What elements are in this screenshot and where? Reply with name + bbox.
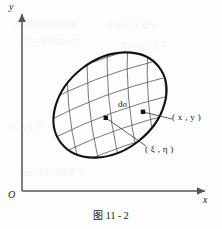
curvilinear-mesh xyxy=(40,36,192,178)
mesh-curve-v xyxy=(127,38,138,158)
figure-container: 在区域上积分得到 的面积元素为 于是有下面的公式 其中积分号下 代入可得 因此所… xyxy=(0,0,222,229)
axis-group xyxy=(22,14,205,191)
figure-caption: 图 11 - 2 xyxy=(0,207,222,222)
mesh-curve-u xyxy=(86,146,192,178)
mesh-curve-u xyxy=(40,48,140,86)
x-axis-label: x xyxy=(203,194,207,205)
area-element-sigma-text: σ xyxy=(123,99,127,109)
y-axis-label: y xyxy=(9,1,13,12)
mesh-curve-v xyxy=(67,48,78,160)
area-element-label: dσ xyxy=(118,99,127,109)
origin-label: O xyxy=(8,189,15,200)
point-marker-xieta xyxy=(104,116,108,120)
region-boundary-ellipse xyxy=(33,31,187,180)
point-marker-xy xyxy=(141,110,145,114)
point-xy-label: ( x , y ) xyxy=(172,112,201,122)
point-xieta-label: ( ξ , η ) xyxy=(145,144,174,154)
